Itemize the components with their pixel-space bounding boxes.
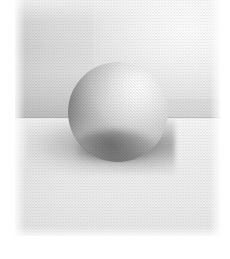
sphere: [68, 62, 168, 162]
sphere-paper-grain-texture: [68, 62, 168, 162]
sphere-reflected-light: [68, 62, 168, 162]
sphere-left-limb-shading: [68, 62, 168, 162]
sphere-core-shadow: [68, 62, 168, 162]
artwork-frame: [0, 0, 230, 259]
drawing-surface: [15, 0, 220, 236]
